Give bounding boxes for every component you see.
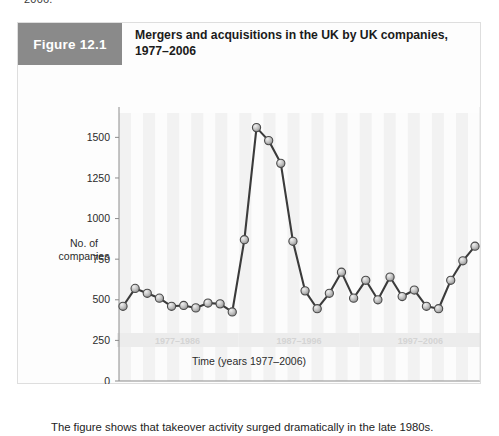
y-axis-tick-label: 1250 — [87, 172, 111, 184]
y-axis-tick-label: 0 — [104, 375, 110, 384]
y-axis-tick-label: 250 — [92, 334, 110, 346]
chart-area: 1977–19861987–19961997–20060250500750100… — [18, 65, 480, 384]
data-point — [143, 289, 151, 297]
data-point — [240, 236, 248, 244]
data-point — [398, 292, 406, 300]
data-point — [325, 289, 333, 297]
data-point — [447, 276, 455, 284]
data-point — [131, 284, 139, 292]
data-point — [350, 294, 358, 302]
page-top-text-fragment: 2006. — [24, 0, 53, 5]
data-point — [313, 305, 321, 313]
data-point — [192, 304, 200, 312]
data-point — [374, 296, 382, 304]
line-chart: 1977–19861987–19961997–20060250500750100… — [18, 65, 480, 384]
decade-band-label: 1977–1986 — [155, 336, 200, 346]
data-point — [289, 237, 297, 245]
figure-header: Figure 12.1 Mergers and acquisitions in … — [18, 23, 480, 65]
x-axis-title: Time (years 1977–2006) — [18, 355, 480, 367]
data-point — [459, 257, 467, 265]
data-point — [301, 287, 309, 295]
data-point — [265, 137, 273, 145]
y-axis-title-text: No. of companies — [59, 237, 110, 262]
y-axis-tick-label: 1000 — [87, 212, 111, 224]
decade-band-label: 1997–2006 — [398, 336, 443, 346]
decade-band-label: 1987–1996 — [276, 336, 321, 346]
data-point — [471, 242, 479, 250]
data-point — [216, 300, 224, 308]
figure-number-badge: Figure 12.1 — [18, 23, 122, 65]
data-point — [204, 299, 212, 307]
figure-title: Mergers and acquisitions in the UK by UK… — [135, 28, 467, 59]
data-point — [410, 286, 418, 294]
data-point — [167, 302, 175, 310]
y-axis-tick-label: 1500 — [87, 131, 111, 143]
data-point — [422, 302, 430, 310]
data-point — [180, 301, 188, 309]
y-axis-title: No. of companies — [48, 237, 120, 262]
y-axis-tick-label: 500 — [92, 293, 110, 305]
data-point — [277, 159, 285, 167]
figure-container: Figure 12.1 Mergers and acquisitions in … — [17, 22, 481, 384]
data-point — [119, 302, 127, 310]
data-point — [434, 305, 442, 313]
data-point — [228, 308, 236, 316]
data-point — [155, 294, 163, 302]
data-point — [362, 276, 370, 284]
data-point — [252, 124, 260, 132]
data-point — [337, 268, 345, 276]
data-point — [386, 273, 394, 281]
figure-caption: The figure shows that takeover activity … — [51, 420, 491, 435]
